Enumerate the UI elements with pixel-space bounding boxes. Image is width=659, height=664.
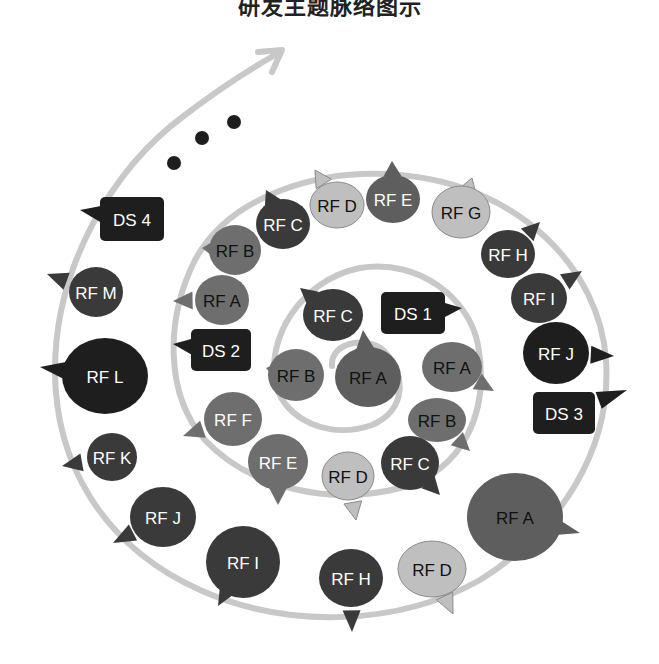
bubble-label: DS 2 xyxy=(202,342,240,361)
bubble-label: RF J xyxy=(145,509,181,528)
bubble-label: RF I xyxy=(523,290,555,309)
rf-bubble: RF I xyxy=(511,271,582,323)
rf-bubble: RF E xyxy=(248,434,308,505)
ellipsis-dot-icon xyxy=(195,131,209,145)
bubble-label: RF L xyxy=(87,368,124,387)
callout-tail xyxy=(343,610,361,632)
ds-callout: DS 3 xyxy=(533,390,627,434)
bubble-label: RF B xyxy=(418,412,457,431)
rf-bubble: RF E xyxy=(366,161,420,223)
bubble-label: RF E xyxy=(259,454,298,473)
rf-bubble: RF J xyxy=(113,487,196,547)
rf-bubble: RF H xyxy=(481,222,540,278)
callout-tail xyxy=(596,390,627,409)
bubble-label: RF B xyxy=(277,367,316,386)
rf-bubble: RF C xyxy=(381,436,440,495)
bubble-label: RF C xyxy=(313,307,353,326)
ds-callout: DS 2 xyxy=(173,329,251,371)
bubble-label: DS 3 xyxy=(545,405,583,424)
bubble-label: RF H xyxy=(488,246,528,265)
callout-tail xyxy=(269,488,287,505)
callout-tail xyxy=(383,161,401,176)
bubble-label: RF H xyxy=(331,570,371,589)
spiral-diagram: RF ARF CDS 1RF BRF ARF BRF CRF DRF ERF F… xyxy=(0,0,659,664)
bubble-label: RF D xyxy=(412,561,452,580)
bubble-label: RF E xyxy=(374,191,413,210)
bubble-label: RF D xyxy=(317,197,357,216)
callout-tail xyxy=(344,501,362,520)
bubble-label: RF B xyxy=(216,242,255,261)
bubble-label: RF A xyxy=(496,509,534,528)
bubble-label: RF J xyxy=(538,345,574,364)
bubble-label: RF C xyxy=(263,216,303,235)
bubble-label: RF D xyxy=(328,468,368,487)
rf-bubble: RF G xyxy=(432,178,490,238)
ellipsis-dot-icon xyxy=(167,156,181,170)
bubble-label: RF A xyxy=(203,292,241,311)
rf-bubble: RF C xyxy=(300,288,363,341)
rf-bubble: RF A xyxy=(467,473,580,561)
bubble-label: RF K xyxy=(93,449,132,468)
bubble-label: RF M xyxy=(75,284,117,303)
bubble-label: DS 4 xyxy=(113,211,151,230)
bubble-label: RF I xyxy=(227,554,259,573)
bubble-label: RF F xyxy=(214,411,252,430)
bubble-label: RF A xyxy=(433,359,471,378)
bubble-label: RF C xyxy=(390,455,430,474)
rf-bubble: RF F xyxy=(183,392,262,446)
bubble-label: DS 1 xyxy=(394,305,432,324)
rf-bubble: RF D xyxy=(322,452,374,520)
bubble-label: RF A xyxy=(349,369,387,388)
ellipsis-dot-icon xyxy=(227,115,241,129)
rf-bubble: RF A xyxy=(335,330,401,407)
bubble-label: RF G xyxy=(441,204,482,223)
